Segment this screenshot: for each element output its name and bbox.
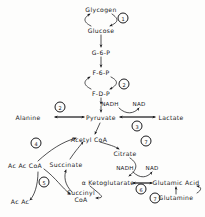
node-glutamine: Glutamine (159, 194, 194, 201)
node-glycogen: Glycogen (85, 6, 116, 13)
edge-glucose-glycogen (85, 14, 91, 26)
node-nadh-upper: NADH (101, 101, 119, 108)
node-alpha-ketoglutarate: α Ketoglutarate (82, 179, 135, 186)
node-g6p: G-6-P (92, 49, 110, 56)
node-acac-coa: Ac Ac CoA (8, 162, 42, 169)
step-marker-7a: 7 (150, 193, 161, 204)
node-glucose: Glucose (88, 27, 115, 34)
node-f6p: F-6-P (92, 69, 109, 76)
edge-fdp-f6p (85, 77, 91, 89)
node-acac: Ac Ac (11, 198, 30, 205)
node-fdp: F-D-P (92, 90, 110, 97)
metabolic-pathway-diagram: Glycogen Glucose G-6-P F-6-P F-D-P Pyruv… (0, 0, 205, 217)
node-nad-lower: NAD (145, 165, 158, 172)
step-marker-4: 4 (31, 138, 42, 149)
node-nadh-lower: NADH (116, 165, 134, 172)
edge-f6p-fdp (110, 77, 117, 89)
node-succinate: Succinate (49, 161, 82, 168)
edge-pyruvate-acetylcoa (95, 123, 100, 134)
node-citrate: Citrate (113, 150, 136, 157)
step-marker-5: 5 (39, 177, 50, 188)
node-acetyl-coa: Acetyl CoA (71, 136, 107, 143)
edge-acaccoa-acac (30, 172, 38, 200)
edge-acetylcoa-citrate (100, 142, 119, 149)
step-marker-3: 3 (132, 121, 143, 132)
node-nad-upper: NAD (132, 101, 145, 108)
edge-glycogen-glucose (110, 14, 117, 26)
node-lactate: Lactate (158, 114, 183, 121)
step-marker-7b: 7 (141, 136, 152, 147)
step-marker-2b: 2 (55, 102, 66, 113)
step-marker-6: 6 (136, 184, 147, 195)
step-marker-1: 1 (118, 13, 129, 24)
edge-nadh-nad-lower (133, 172, 152, 177)
node-glutamic-acid: Glutamic Acid (153, 179, 200, 186)
step-marker-2a: 2 (119, 79, 130, 90)
node-pyruvate: Pyruvate (86, 114, 116, 121)
edge-glutamic-glutamine (197, 186, 201, 193)
edge-succinate-acetylcoa (70, 142, 83, 159)
node-succinyl-coa: Succinyl CoA (67, 190, 95, 203)
node-alanine: Alanine (15, 114, 40, 121)
edge-nadh-nad-upper (119, 108, 139, 113)
